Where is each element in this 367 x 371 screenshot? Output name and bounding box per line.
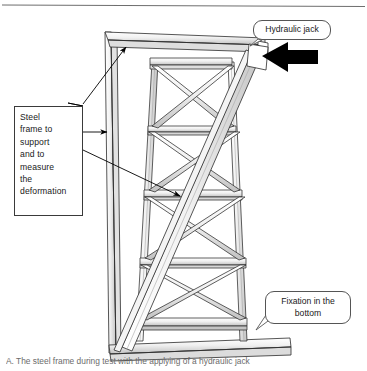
note-line-4: and to (20, 148, 82, 160)
note-line-6: the (20, 173, 82, 185)
fixation-line-2: bottom (295, 308, 321, 318)
load-arrow (262, 42, 318, 72)
hydraulic-jack-label: Hydraulic jack (265, 24, 319, 36)
note-line-1: Steel (20, 111, 82, 123)
note-line-3: support (20, 136, 82, 148)
callout-tails (250, 39, 272, 330)
steel-frame-note: Steel frame to support and to measure th… (14, 106, 83, 216)
fixation-label: Fixation in the bottom (281, 296, 335, 319)
note-line-2: frame to (20, 123, 82, 135)
figure-caption: A. The steel frame during test with the … (6, 356, 361, 367)
note-line-5: measure (20, 161, 82, 173)
fixation-callout: Fixation in the bottom (265, 291, 351, 324)
top-rule (2, 5, 365, 7)
note-line-7: deformation (20, 185, 82, 197)
fixation-line-1: Fixation in the (281, 296, 335, 306)
figure-canvas: Steel frame to support and to measure th… (0, 0, 367, 371)
hydraulic-jack-callout: Hydraulic jack (253, 20, 331, 40)
